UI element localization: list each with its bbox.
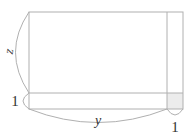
left-one-label: 1 (11, 93, 19, 109)
left-one-brace (23, 93, 29, 109)
bottom-one-label: 1 (171, 119, 179, 135)
corner-square (167, 93, 183, 109)
z-label: z (1, 47, 17, 56)
bottom-one-brace (167, 109, 183, 115)
z-brace (16, 12, 30, 93)
y-label: y (93, 113, 102, 128)
area-diagram: z 1 y 1 (0, 0, 193, 137)
outer-rectangle (29, 12, 183, 109)
